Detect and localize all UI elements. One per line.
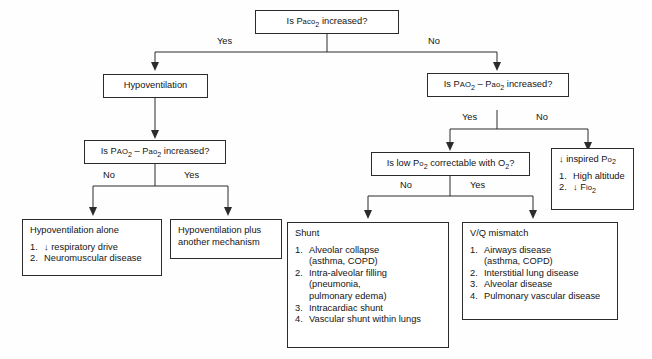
shunt-items: 1.Alveolar collapse(asthma, COPD) 2.Intr… (295, 245, 442, 326)
edge-label-paco2-no: No (428, 36, 440, 46)
node-hypoventilation-alone[interactable]: Hypoventilation alone 1.↓ respiratory dr… (22, 219, 162, 276)
list-item: 1.Airways disease(asthma, COPD) (470, 245, 611, 268)
node-po2-correctable-label: Is low Po2 correctable with O2? (387, 158, 515, 170)
node-hypoventilation-plus-line2: another mechanism (178, 237, 275, 249)
node-gradient-left-question[interactable]: Is PAO2 – Pao2 increased? (84, 140, 226, 164)
low-inspired-po2-items: 1.High altitude 2.↓ Fio2 (559, 171, 627, 194)
edge-label-paco2-yes: Yes (217, 36, 232, 46)
node-shunt[interactable]: Shunt 1.Alveolar collapse(asthma, COPD) … (287, 222, 449, 348)
node-low-inspired-po2-title: ↓ inspired Po2 (559, 154, 627, 166)
node-paco2-label: Is Paco2 increased? (287, 16, 368, 28)
list-item: 3.Intracardiac shunt (295, 303, 442, 315)
list-item: 4.Vascular shunt within lungs (295, 314, 442, 326)
edge-label-gradient-right-no: No (536, 112, 548, 122)
list-item: 2.↓ Fio2 (559, 182, 627, 194)
node-gradient-right-label: Is PAO2 – Pao2 increased? (444, 79, 553, 91)
node-hypoventilation[interactable]: Hypoventilation (103, 74, 208, 98)
list-item: 1.↓ respiratory drive (30, 242, 155, 254)
list-item: 2.Neuromuscular disease (30, 253, 155, 265)
node-gradient-left-label: Is PAO2 – Pao2 increased? (101, 146, 210, 158)
node-hypoventilation-alone-title: Hypoventilation alone (30, 225, 155, 237)
node-po2-correctable-question[interactable]: Is low Po2 correctable with O2? (371, 152, 530, 176)
node-hypoventilation-plus[interactable]: Hypoventilation plus another mechanism (170, 219, 282, 259)
node-low-inspired-po2[interactable]: ↓ inspired Po2 1.High altitude 2.↓ Fio2 (551, 148, 634, 210)
edge-label-po2-yes: Yes (470, 180, 485, 190)
node-hypoventilation-plus-line1: Hypoventilation plus (178, 225, 275, 237)
node-vq-mismatch[interactable]: V/Q mismatch 1.Airways disease(asthma, C… (462, 222, 618, 320)
node-gradient-right-question[interactable]: Is PAO2 – Pao2 increased? (427, 73, 569, 97)
edge-label-gradient-right-yes: Yes (462, 112, 477, 122)
flowchart-canvas: Is Paco2 increased? Hypoventilation Is P… (0, 0, 652, 359)
node-vq-mismatch-title: V/Q mismatch (470, 228, 611, 240)
edge-label-gradient-left-no: No (103, 170, 115, 180)
list-item: 3.Alveolar disease (470, 279, 611, 291)
list-item: 4.Pulmonary vascular disease (470, 291, 611, 303)
list-item: 2.Intra-alveolar filling(pneumonia,pulmo… (295, 268, 442, 303)
edge-label-gradient-left-yes: Yes (184, 170, 199, 180)
list-item: 1.High altitude (559, 171, 627, 183)
list-item: 2.Interstitial lung disease (470, 268, 611, 280)
list-item: 1.Alveolar collapse(asthma, COPD) (295, 245, 442, 268)
node-paco2-question[interactable]: Is Paco2 increased? (255, 10, 399, 34)
node-shunt-title: Shunt (295, 228, 442, 240)
vq-mismatch-items: 1.Airways disease(asthma, COPD) 2.Inters… (470, 245, 611, 303)
node-hypoventilation-label: Hypoventilation (124, 80, 188, 92)
hypoventilation-alone-items: 1.↓ respiratory drive 2.Neuromuscular di… (30, 242, 155, 265)
edge-label-po2-no: No (400, 180, 412, 190)
